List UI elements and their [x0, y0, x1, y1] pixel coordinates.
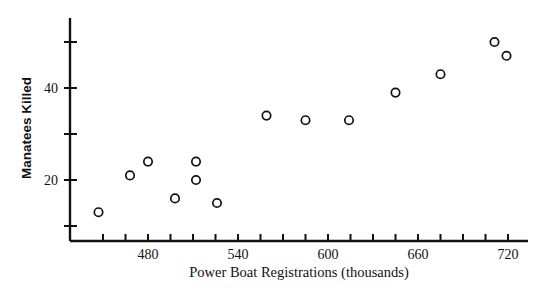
y-axis-tick-labels: 2040	[44, 81, 58, 188]
data-point	[126, 171, 134, 179]
data-point	[192, 157, 200, 165]
data-point	[144, 157, 152, 165]
chart-svg: 2040 480540600660720 Power Boat Registra…	[0, 0, 538, 294]
data-point	[213, 199, 221, 207]
y-axis-group: 2040	[44, 18, 77, 241]
data-point	[192, 176, 200, 184]
scatter-chart: 2040 480540600660720 Power Boat Registra…	[0, 0, 538, 294]
data-points-layer	[94, 38, 510, 217]
x-axis-group: 480540600660720	[70, 234, 528, 262]
y-tick-label: 20	[44, 173, 58, 188]
y-tick-label: 40	[44, 81, 58, 96]
x-tick-label: 720	[498, 247, 519, 262]
x-tick-label: 600	[318, 247, 339, 262]
y-axis-title: Manatees Killed	[19, 77, 34, 179]
x-axis-title: Power Boat Registrations (thousands)	[189, 264, 409, 281]
data-point	[262, 111, 270, 119]
x-axis-tick-labels: 480540600660720	[138, 247, 519, 262]
data-point	[301, 116, 309, 124]
x-tick-label: 480	[138, 247, 159, 262]
data-point	[391, 88, 399, 96]
x-tick-label: 540	[228, 247, 249, 262]
data-point	[436, 70, 444, 78]
data-point	[345, 116, 353, 124]
data-point	[94, 208, 102, 216]
data-point	[171, 194, 179, 202]
x-tick-label: 660	[408, 247, 429, 262]
data-point	[490, 38, 498, 46]
data-point	[502, 52, 510, 60]
